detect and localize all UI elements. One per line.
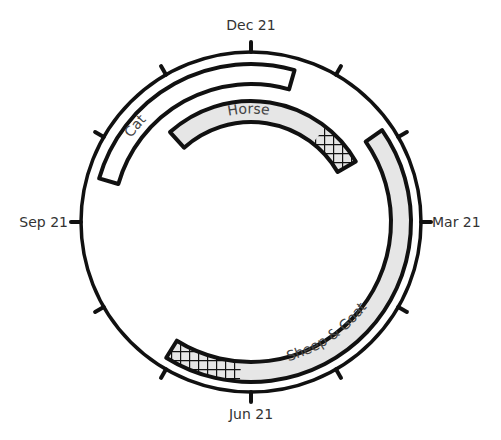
- season-bars: CatHorseSheep & Goat: [99, 64, 411, 382]
- month-label: Jun 21: [228, 406, 273, 422]
- bar-horse: Horse: [170, 100, 356, 172]
- month-label: Sep 21: [19, 214, 68, 230]
- tick-mark: [398, 307, 407, 312]
- bar-label: Horse: [226, 100, 270, 118]
- tick-mark: [95, 132, 104, 137]
- month-ticks: [71, 42, 431, 402]
- month-label: Dec 21: [226, 17, 275, 33]
- month-label: Mar 21: [432, 214, 481, 230]
- tick-mark: [336, 66, 341, 75]
- tick-mark: [161, 369, 166, 378]
- tick-mark: [398, 132, 407, 137]
- tick-mark: [95, 307, 104, 312]
- breeding-season-diagram: CatHorseSheep & Goat Dec 21Mar 21Jun 21S…: [0, 0, 501, 440]
- tick-mark: [336, 369, 341, 378]
- bar-sheep-goat: Sheep & Goat: [166, 130, 411, 382]
- tick-mark: [161, 66, 166, 75]
